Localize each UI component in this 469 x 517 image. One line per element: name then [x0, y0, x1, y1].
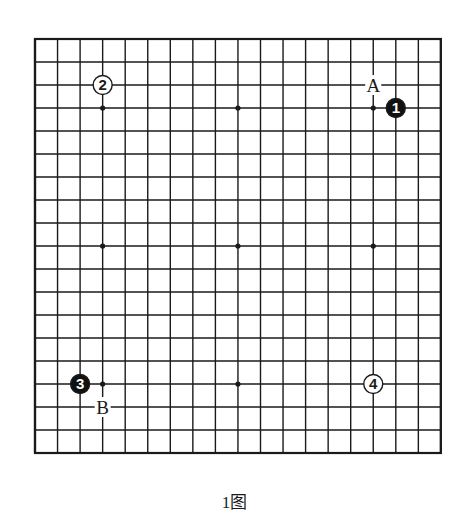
move-number: 4	[369, 375, 378, 392]
star-point-dot	[235, 105, 240, 110]
star-point-dot	[100, 243, 105, 248]
move-number: 1	[392, 99, 400, 116]
white-stone-2: 2	[93, 76, 112, 95]
move-number: 2	[98, 76, 106, 93]
go-board-diagram: AB 1234	[0, 0, 469, 517]
move-number: 3	[76, 375, 84, 392]
star-point-dot	[100, 381, 105, 386]
star-point-dot	[371, 243, 376, 248]
point-label-a: A	[366, 75, 380, 96]
black-stone-3: 3	[71, 375, 90, 394]
point-label-b: B	[96, 397, 109, 418]
star-point-dot	[235, 381, 240, 386]
star-point-dot	[371, 105, 376, 110]
star-point-dot	[100, 105, 105, 110]
black-stone-1: 1	[386, 99, 405, 118]
figure-caption: 1图	[0, 488, 469, 513]
star-point-dot	[235, 243, 240, 248]
white-stone-4: 4	[364, 375, 383, 394]
